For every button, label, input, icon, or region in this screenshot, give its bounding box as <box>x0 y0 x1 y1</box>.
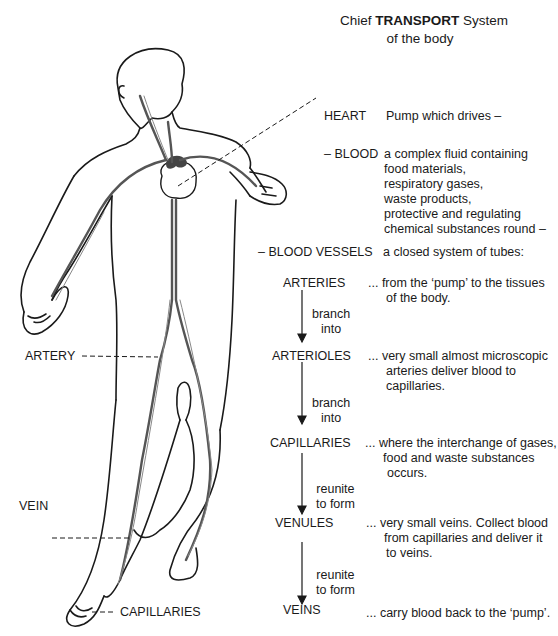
artery-figure-label: ARTERY <box>25 349 75 364</box>
heart-label: HEART <box>324 109 366 124</box>
arteries-label: ARTERIES <box>283 276 345 291</box>
connector-reunite-2: reunite to form <box>316 568 355 598</box>
arterioles-label: ARTERIOLES <box>272 349 351 364</box>
heart-desc: Pump which drives – <box>386 109 501 124</box>
capillaries-figure-label: CAPILLARIES <box>120 605 201 620</box>
capillaries-flow-label: CAPILLARIES <box>270 436 351 451</box>
blood-vessels-desc: a closed system of tubes: <box>383 245 524 260</box>
title-emphasis: TRANSPORT <box>375 13 459 28</box>
veins-label: VEINS <box>283 603 321 618</box>
venules-desc: ... very small veins. Collect blood from… <box>366 516 548 561</box>
veins-desc: ... carry blood back to the ‘pump’. <box>366 606 550 621</box>
title-line2: of the body <box>387 31 454 46</box>
arteries-desc: ... from the ‘pump’ to the tissues of th… <box>368 276 545 306</box>
heart-leader <box>178 98 316 186</box>
connector-reunite-1: reunite to form <box>316 482 355 512</box>
artery-leader <box>82 356 158 357</box>
venules-label: VENULES <box>275 516 333 531</box>
blood-desc: a complex fluid containing food material… <box>384 147 546 237</box>
connector-branch-into-1: branch into <box>312 307 350 337</box>
diagram-title: Chief TRANSPORT System of the body <box>340 12 500 48</box>
capillaries-desc: ... where the interchange of gases, food… <box>365 436 557 481</box>
vein-figure-label: VEIN <box>19 499 48 514</box>
arterioles-desc: ... very small almost microscopic arteri… <box>368 349 548 394</box>
connector-branch-into-2: branch into <box>312 396 350 426</box>
blood-vessels-label: – BLOOD VESSELS <box>258 245 373 260</box>
blood-label: – BLOOD <box>324 147 378 162</box>
